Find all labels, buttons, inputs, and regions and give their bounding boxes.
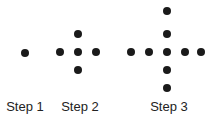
dot [145, 48, 153, 56]
dot [21, 49, 29, 57]
step-1-label: Step 1 [6, 99, 44, 114]
dot [56, 48, 64, 56]
step-2-label: Step 2 [61, 99, 99, 114]
step-3-label: Step 3 [150, 99, 188, 114]
step-3-dots [127, 7, 205, 92]
dot [163, 48, 171, 56]
dot [163, 7, 171, 15]
dot [197, 48, 205, 56]
dot [74, 48, 82, 56]
dot [92, 48, 100, 56]
step-1-dots [21, 49, 29, 57]
step-2-dots [56, 30, 100, 74]
dot [127, 48, 135, 56]
dot [163, 84, 171, 92]
dot [74, 30, 82, 38]
dot [74, 66, 82, 74]
dot [163, 30, 171, 38]
dot [163, 66, 171, 74]
dot [181, 48, 189, 56]
